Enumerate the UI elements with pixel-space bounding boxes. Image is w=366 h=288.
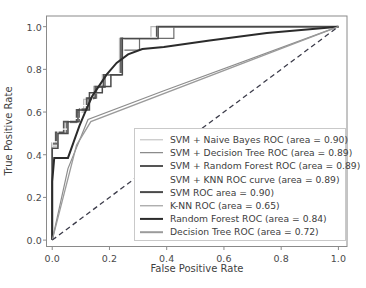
legend-line-swatch: [140, 135, 163, 145]
legend-line-swatch: [140, 187, 163, 197]
roc-curve-figure: 0.00.20.40.60.81.0 0.00.20.40.60.81.0 Fa…: [0, 0, 366, 288]
chart-legend: SVM + Naive Bayes ROC (area = 0.90)SVM +…: [134, 128, 346, 241]
legend-item: SVM + Random Forest ROC (area = 0.89): [140, 159, 340, 172]
legend-label: SVM + Decision Tree ROC (area = 0.89): [170, 148, 352, 157]
y-axis-title: True Positive Rate: [3, 86, 14, 175]
y-tick-label: 0.6: [18, 107, 42, 118]
legend-item: SVM + Naive Bayes ROC (area = 0.90): [140, 133, 340, 146]
legend-line-swatch: [140, 148, 163, 158]
legend-label: SVM ROC area = 0.90): [170, 188, 274, 197]
legend-item: Decision Tree ROC (area = 0.72): [140, 225, 340, 238]
legend-line-swatch: [140, 161, 163, 171]
legend-line-swatch: [140, 174, 163, 184]
y-tick-label: 0.8: [18, 64, 42, 75]
x-tick-label: 1.0: [331, 253, 346, 264]
y-tick-label: 1.0: [18, 21, 42, 32]
legend-line-swatch: [140, 201, 163, 211]
x-tick-label: 0.6: [216, 253, 231, 264]
legend-label: Random Forest ROC (area = 0.84): [170, 214, 327, 223]
x-tick-label: 0.8: [273, 253, 288, 264]
legend-label: SVM + Random Forest ROC (area = 0.89): [170, 161, 360, 170]
legend-line-swatch: [140, 214, 163, 224]
legend-item: Random Forest ROC (area = 0.84): [140, 212, 340, 225]
legend-line-swatch: [140, 227, 163, 237]
x-tick-label: 0.4: [159, 253, 174, 264]
y-tick-label: 0.4: [18, 149, 42, 160]
legend-label: SVM + Naive Bayes ROC (area = 0.90): [170, 135, 348, 144]
y-tick-label: 0.2: [18, 192, 42, 203]
legend-item: SVM + Decision Tree ROC (area = 0.89): [140, 146, 340, 159]
x-tick-label: 0.2: [102, 253, 117, 264]
legend-label: Decision Tree ROC (area = 0.72): [170, 227, 319, 236]
legend-item: SVM ROC area = 0.90): [140, 186, 340, 199]
y-tick-label: 0.0: [18, 235, 42, 246]
legend-label: SVM + KNN ROC curve (area = 0.89): [170, 175, 340, 184]
x-axis-title: False Positive Rate: [151, 263, 244, 274]
legend-item: SVM + KNN ROC curve (area = 0.89): [140, 173, 340, 186]
legend-item: K-NN ROC (area = 0.65): [140, 199, 340, 212]
x-tick-label: 0.0: [45, 253, 60, 264]
legend-label: K-NN ROC (area = 0.65): [170, 201, 280, 210]
